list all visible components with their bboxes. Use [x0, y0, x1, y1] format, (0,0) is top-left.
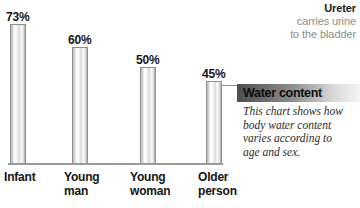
ureter-annotation: Ureter carries urine to the bladder: [206, 2, 356, 41]
caption-header-bar: Water content: [237, 84, 360, 102]
bar-label-2: Young woman: [130, 170, 170, 198]
bar-young-woman: [140, 67, 156, 163]
bar-label-0: Infant: [4, 170, 35, 184]
chart-baseline: [8, 163, 223, 165]
caption-title: Water content: [243, 86, 322, 100]
bar-infant: [10, 24, 26, 163]
bar-label-1: Young man: [64, 170, 99, 198]
ureter-description: carries urine to the bladder: [206, 15, 356, 41]
bar-older-person: [206, 81, 222, 163]
caption-description: This chart shows how body water content …: [237, 105, 360, 159]
bar-value-2: 50%: [136, 53, 159, 67]
ureter-title: Ureter: [206, 2, 356, 15]
bar-value-0: 73%: [6, 10, 29, 24]
bar-value-3: 45%: [202, 67, 225, 81]
bar-young-man: [72, 47, 88, 163]
bar-label-3: Older person: [198, 170, 237, 198]
water-content-caption: Water content This chart shows how body …: [237, 84, 360, 159]
bar-value-1: 60%: [68, 33, 91, 47]
bar-chart: 73% Infant 60% Young man 50% Young woman…: [0, 0, 230, 208]
